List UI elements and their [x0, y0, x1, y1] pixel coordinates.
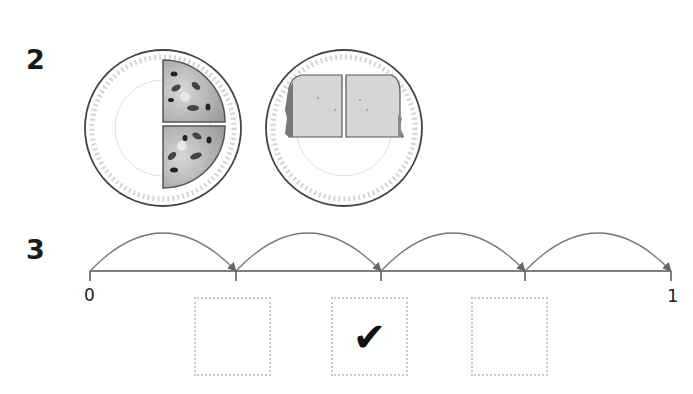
answer-box-3[interactable] [471, 297, 548, 376]
jump-arrow-1 [90, 233, 236, 271]
number-line-start-label: 0 [84, 287, 95, 304]
jump-arrow-3 [381, 233, 525, 271]
number-line [90, 233, 671, 281]
number-line-end-label: 1 [667, 287, 678, 305]
answer-box-1[interactable] [194, 297, 271, 376]
answer-box-2[interactable]: ✔ [331, 297, 408, 376]
bread-plate [266, 50, 422, 206]
checkmark-icon: ✔ [353, 317, 387, 357]
jump-arrow-4 [525, 233, 671, 271]
jump-arrow-2 [236, 233, 381, 271]
pizza-plate [85, 50, 241, 206]
